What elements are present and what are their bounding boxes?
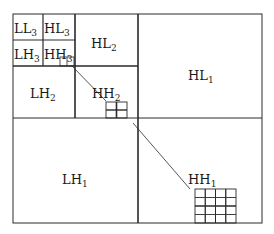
label-hl2: HL2 [91, 36, 117, 53]
hh2-coefficient-grid [106, 102, 127, 118]
label-lh1: LH1 [62, 172, 88, 189]
hh2-to-hh1-connector [133, 123, 190, 189]
label-hl1: HL1 [188, 68, 214, 85]
label-ll3: LL3 [14, 21, 37, 38]
label-hh1: HH1 [188, 172, 216, 189]
hh1-coefficient-grid [195, 189, 236, 223]
wavelet-subband-diagram: LL3 HL3 LH3 HH3 HL2 LH2 HH2 HL1 LH1 HH1 [0, 0, 274, 234]
label-lh2: LH2 [30, 86, 56, 103]
label-lh3: LH3 [14, 47, 40, 64]
label-hl3: HL3 [44, 21, 70, 38]
label-hh3: HH3 [44, 47, 73, 64]
label-hh2: HH2 [92, 86, 120, 103]
